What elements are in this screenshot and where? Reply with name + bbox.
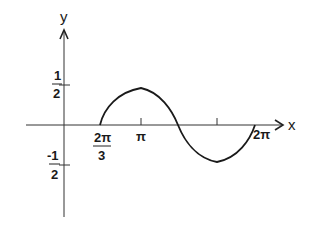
y-label-half-den: 2 xyxy=(53,86,60,101)
x-label-2pi: 2π xyxy=(253,127,270,142)
x-label-pi: π xyxy=(136,129,146,144)
x-label-2pi-3-num: 2π xyxy=(94,130,111,145)
y-label-neg-half-den: 2 xyxy=(51,167,58,182)
sine-graph: y x 1 2 -1 2 2π 3 π 2π xyxy=(0,0,320,231)
x-label-2pi-3-den: 3 xyxy=(98,148,105,163)
x-axis-label: x xyxy=(288,116,296,133)
y-axis-label: y xyxy=(60,8,68,25)
y-label-neg-half-num: -1 xyxy=(47,148,59,163)
y-label-half-num: 1 xyxy=(54,68,61,83)
